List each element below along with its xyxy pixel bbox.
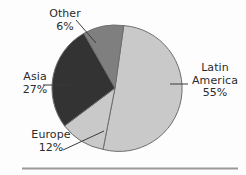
slice-label-europe: Europe 12%: [18, 129, 84, 154]
slice-label-asia-name: Asia: [23, 70, 46, 83]
slice-label-other-name: Other: [49, 7, 81, 20]
slice-label-asia-percent: 27%: [4, 84, 66, 97]
slice-label-latin-america-name-line1: Latin: [201, 61, 229, 74]
slice-label-other: Other 6%: [32, 8, 98, 33]
slice-label-europe-percent: 12%: [18, 142, 84, 155]
slice-label-europe-name: Europe: [31, 128, 70, 141]
slice-label-latin-america-percent: 55%: [186, 87, 244, 100]
slice-label-latin-america: Latin America 55%: [186, 62, 244, 100]
pie-chart-figure: Other 6% Asia 27% Europe 12% Latin Ameri…: [0, 0, 246, 175]
slice-label-asia: Asia 27%: [4, 71, 66, 96]
slice-label-other-percent: 6%: [32, 21, 98, 34]
